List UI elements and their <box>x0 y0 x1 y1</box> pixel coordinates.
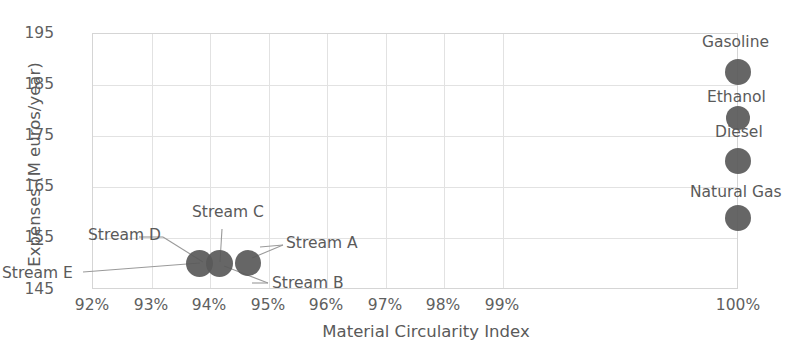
gridline-x-99 <box>503 34 504 288</box>
y-axis-title: Expenses (M euros/year) <box>25 35 44 295</box>
x-axis-title-text: Material Circularity Index <box>322 322 529 341</box>
xtick-100: 100% <box>703 296 773 314</box>
gridline-x-95 <box>269 34 270 288</box>
label-natural-gas: Natural Gas <box>690 183 782 201</box>
gridline-y-155 <box>93 238 737 239</box>
label-stream-b: Stream B <box>272 274 344 292</box>
marker-diesel[interactable] <box>725 148 751 174</box>
label-ethanol: Ethanol <box>707 88 766 106</box>
gridline-x-93 <box>152 34 153 288</box>
marker-gasoline[interactable] <box>725 59 751 85</box>
label-stream-d: Stream D <box>88 226 161 244</box>
label-stream-c: Stream C <box>192 203 264 221</box>
gridline-y-175 <box>93 136 737 137</box>
label-gasoline: Gasoline <box>702 33 769 51</box>
gridline-x-94 <box>210 34 211 288</box>
gridline-y-185 <box>93 85 737 86</box>
plot-area <box>92 33 738 289</box>
label-diesel: Diesel <box>715 123 763 141</box>
marker-stream-a[interactable] <box>235 250 261 276</box>
gridline-x-97 <box>386 34 387 288</box>
label-stream-e: Stream E <box>2 264 73 282</box>
gridline-x-98 <box>444 34 445 288</box>
gridline-y-165 <box>93 187 737 188</box>
marker-natural-gas[interactable] <box>725 205 751 231</box>
scatter-chart: 195 185 175 165 155 145 92% 93% 94% 95% … <box>0 0 800 354</box>
xtick-99: 99% <box>467 296 537 314</box>
x-axis-title: Material Circularity Index <box>0 322 800 341</box>
marker-stream-cb[interactable] <box>206 250 233 277</box>
label-stream-a: Stream A <box>286 234 358 252</box>
